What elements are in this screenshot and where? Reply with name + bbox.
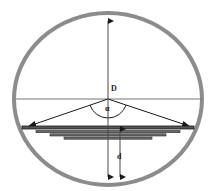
- dimension-label-d: d: [117, 153, 121, 161]
- dimension-label-D: D: [111, 85, 117, 93]
- angle-label-alpha: α: [105, 105, 109, 113]
- angle-ray-right: [108, 99, 189, 126]
- cross-section-diagram-graphic: [0, 0, 218, 191]
- diagram-canvas: D α d: [0, 0, 218, 191]
- angle-ray-left: [29, 99, 108, 126]
